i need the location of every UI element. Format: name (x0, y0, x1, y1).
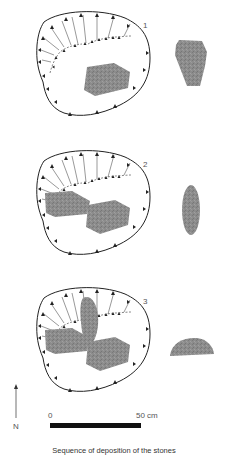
stone-a-plan (45, 191, 90, 217)
panel-label-3: 3 (143, 298, 147, 306)
panel-label-2: 2 (143, 161, 147, 169)
stone-b-plan (86, 200, 130, 234)
figure-caption: Sequence of deposition of the stones (0, 447, 228, 455)
north-label: N (13, 423, 19, 431)
north-arrow (14, 384, 18, 418)
scale-bar (50, 423, 141, 428)
stone-1-plan (84, 63, 130, 96)
stone-1-side (175, 40, 207, 86)
panel-label-1: 1 (143, 22, 147, 30)
stone-2-side (182, 185, 200, 235)
pit-outline-1 (37, 12, 150, 116)
stone-3-side (170, 338, 214, 356)
panel-3 (37, 288, 214, 392)
scale-start-label: 0 (48, 412, 52, 420)
panel-1 (37, 12, 207, 116)
deposition-diagram (0, 0, 228, 463)
panel-2 (37, 151, 200, 255)
scale-end-label: 50 cm (136, 412, 158, 420)
